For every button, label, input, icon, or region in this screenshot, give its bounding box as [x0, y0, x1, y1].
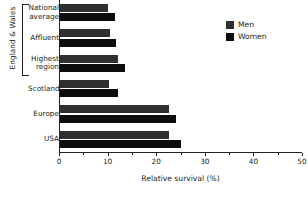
x-tick-label-30: 30 [200, 157, 209, 166]
category-label-usa: USA [28, 135, 59, 143]
bar-men-affluent [60, 29, 110, 37]
bar-women-europe [60, 115, 176, 123]
bar-men-scotland [60, 80, 109, 88]
x-tick-50 [302, 153, 303, 156]
bar-women-highest-region [60, 64, 125, 72]
x-minor-tick-5 [83, 153, 84, 155]
x-tick-label-10: 10 [103, 157, 112, 166]
legend-item-men: Men [226, 20, 267, 29]
category-label-scotland: Scotland [28, 85, 59, 93]
x-tick-0 [59, 153, 60, 156]
bar-men-highest-region [60, 55, 118, 63]
x-tick-20 [156, 153, 157, 156]
category-label-europe: Europe [28, 110, 59, 118]
legend-swatch-women [226, 33, 234, 41]
y-axis-line [59, 0, 60, 152]
bar-men-europe [60, 105, 169, 113]
x-tick-10 [108, 153, 109, 156]
category-label-affluent: Affluent [28, 34, 59, 42]
bar-women-scotland [60, 89, 118, 97]
x-tick-30 [205, 153, 206, 156]
bar-women-national-average [60, 13, 115, 21]
bar-women-usa [60, 140, 181, 148]
x-tick-label-40: 40 [249, 157, 258, 166]
x-minor-tick-35 [229, 153, 230, 155]
legend-item-women: Women [226, 32, 267, 41]
relative-survival-bar-chart: England & Wales Nationalaverage Affluent… [0, 0, 308, 198]
x-minor-tick-25 [181, 153, 182, 155]
legend-label-women: Women [238, 32, 267, 41]
legend-swatch-men [226, 21, 234, 29]
category-label-national-average: Nationalaverage [28, 4, 59, 21]
bar-women-affluent [60, 39, 116, 47]
group-bracket-label: England & Wales [8, 8, 17, 70]
x-tick-label-50: 50 [297, 157, 306, 166]
legend: Men Women [226, 20, 267, 44]
legend-label-men: Men [238, 20, 254, 29]
x-minor-tick-45 [278, 153, 279, 155]
x-tick-label-20: 20 [152, 157, 161, 166]
category-axis-labels: Nationalaverage Affluent Highestregion S… [28, 0, 59, 152]
x-minor-tick-15 [132, 153, 133, 155]
x-axis-title: Relative survival (%) [59, 174, 302, 183]
x-tick-label-0: 0 [57, 157, 62, 166]
bar-men-national-average [60, 4, 108, 12]
bar-men-usa [60, 131, 169, 139]
category-label-highest-region: Highestregion [28, 55, 59, 72]
x-tick-40 [253, 153, 254, 156]
